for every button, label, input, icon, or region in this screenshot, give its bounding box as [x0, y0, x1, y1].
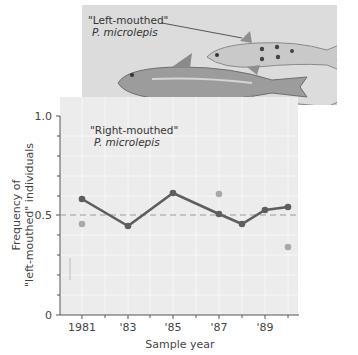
main-series-line — [82, 193, 288, 226]
x-tick-label-1981: 1981 — [68, 321, 96, 334]
y-axis-title-line2: "left-mouthed" individuals — [23, 143, 36, 287]
y-axis-title-line1: Frequency of — [10, 178, 23, 250]
x-tick-label-83: '83 — [119, 321, 136, 334]
x-tick-label-89: '89 — [256, 321, 273, 334]
y-tick-label-1: 1.0 — [35, 110, 53, 123]
x-ticks — [82, 315, 288, 319]
y-tick-label-0.5: 0.5 — [35, 209, 53, 222]
x-tick-label-87: '87 — [210, 321, 227, 334]
y-tick-label-0: 0 — [45, 309, 52, 322]
right-mouthed-species: P. microlepis — [90, 136, 178, 148]
y-ticks — [56, 116, 60, 315]
right-mouthed-label: "Right-mouthed" P. microlepis — [90, 124, 178, 148]
right-mouthed-title: "Right-mouthed" — [90, 124, 178, 136]
chart: 1.0 0.5 0 1981 '83 '85 '87 '89 Sample ye… — [0, 0, 358, 355]
x-tick-label-85: '85 — [164, 321, 181, 334]
x-axis-title: Sample year — [145, 338, 215, 351]
